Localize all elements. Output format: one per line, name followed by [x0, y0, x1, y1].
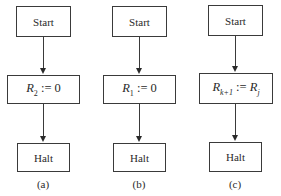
connector-c-1: [235, 36, 236, 67]
arrow-head-icon: [40, 136, 46, 142]
start-label-c: Start: [225, 15, 246, 27]
arrow-head-icon: [40, 68, 46, 74]
instruction-label-c: Rk+1 := Rj: [212, 80, 259, 97]
halt-node-a: Halt: [17, 143, 70, 172]
caption-a: (a): [28, 178, 58, 190]
caption-b: (b): [124, 178, 154, 190]
instruction-node-c: Rk+1 := Rj: [199, 73, 273, 104]
start-label-a: Start: [33, 16, 54, 28]
connector-a-1: [43, 37, 44, 69]
start-node-a: Start: [16, 6, 71, 37]
arrow-head-icon: [136, 136, 142, 142]
instruction-label-b: R1 := 0: [122, 81, 157, 98]
halt-node-c: Halt: [209, 142, 262, 172]
connector-b-1: [139, 37, 140, 69]
halt-node-b: Halt: [113, 143, 166, 172]
arrow-head-icon: [232, 135, 238, 141]
connector-b-2: [139, 104, 140, 137]
halt-label-b: Halt: [130, 152, 149, 164]
start-node-b: Start: [112, 6, 167, 37]
halt-label-a: Halt: [34, 152, 53, 164]
connector-a-2: [43, 104, 44, 137]
halt-label-c: Halt: [226, 151, 245, 163]
instruction-label-a: R2 := 0: [26, 81, 61, 98]
arrow-head-icon: [232, 66, 238, 72]
connector-c-2: [235, 104, 236, 136]
caption-c: (c): [220, 178, 250, 190]
instruction-node-a: R2 := 0: [7, 75, 80, 104]
instruction-node-b: R1 := 0: [103, 75, 176, 104]
start-label-b: Start: [129, 16, 150, 28]
start-node-c: Start: [208, 5, 263, 36]
arrow-head-icon: [136, 68, 142, 74]
